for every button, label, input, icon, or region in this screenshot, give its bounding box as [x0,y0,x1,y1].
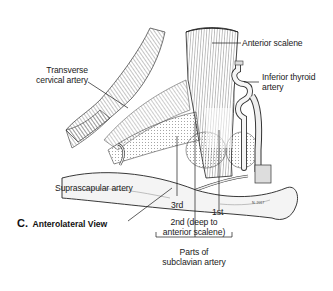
label-parts-of-subclavian: Parts of subclavian artery [152,247,236,267]
anatomy-figure: N. 2017 Transverse cervical artery Anter… [0,0,333,291]
suprascapular-artery [196,176,248,190]
label-line: Inferior thyroid [262,72,315,82]
label-first-part: 1st [212,207,223,217]
label-line: Transverse [24,65,88,75]
panel-title: C. Anterolateral View [17,213,107,231]
panel-view-name: Anterolateral View [32,219,107,229]
label-anterior-scalene: Anterior scalene [242,38,303,48]
panel-letter: C. [17,217,28,229]
label-third-part: 3rd [171,200,183,210]
label-line: artery [262,82,315,92]
label-second-part: 2nd (deep to anterior scalene) [152,217,236,237]
label-line: cervical artery [24,75,88,85]
svg-text:N. 2017: N. 2017 [252,201,264,205]
label-line: anterior scalene) [152,227,236,237]
label-suprascapular-artery: Suprascapular artery [55,183,133,193]
label-line: Parts of [152,247,236,257]
label-inferior-thyroid-artery: Inferior thyroid artery [262,72,315,92]
label-transverse-cervical-artery: Transverse cervical artery [24,65,88,85]
label-line: 2nd (deep to [152,217,236,227]
label-line: subclavian artery [152,257,236,267]
